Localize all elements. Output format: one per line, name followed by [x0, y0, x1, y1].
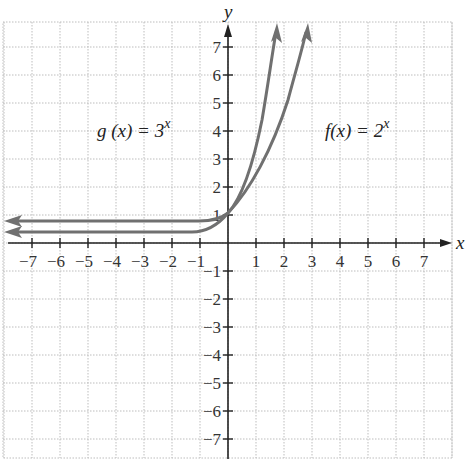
- y-tick-label: 2: [213, 178, 222, 197]
- y-axis-label: y: [222, 1, 233, 22]
- axes: [8, 24, 452, 459]
- y-tick-label: 4: [213, 122, 222, 141]
- x-tick-label: −6: [47, 252, 65, 271]
- g-up-arrow-icon: [271, 23, 282, 43]
- x-tick-label: 3: [308, 252, 317, 271]
- y-tick-label: 3: [213, 150, 222, 169]
- f-function-label: f(x) = 2x: [325, 116, 390, 142]
- x-tick-label: 1: [252, 252, 261, 271]
- x-tick-label: 5: [364, 252, 373, 271]
- y-tick-label: −1: [203, 262, 221, 281]
- y-tick-label: −4: [203, 346, 222, 365]
- x-tick-label: −2: [159, 252, 177, 271]
- g-label-exponent: x: [163, 116, 171, 131]
- y-tick-label: −7: [203, 430, 222, 449]
- x-tick-label: 2: [280, 252, 289, 271]
- x-tick-label: −4: [103, 252, 122, 271]
- x-tick-label: 6: [392, 252, 401, 271]
- y-tick-label: −2: [203, 290, 221, 309]
- x-tick-label: 7: [420, 252, 429, 271]
- y-tick-label: 5: [213, 94, 222, 113]
- f-up-arrow-icon: [301, 23, 312, 43]
- g-function-label: g (x) = 3x: [97, 116, 171, 142]
- y-tick-label: −3: [203, 318, 221, 337]
- f-label-exponent: x: [382, 116, 390, 131]
- y-tick-label: −5: [203, 374, 221, 393]
- y-tick-label: 6: [213, 66, 222, 85]
- g-label-base: g (x) = 3: [97, 120, 164, 142]
- x-tick-label: 4: [336, 252, 345, 271]
- x-axis-label: x: [455, 232, 465, 253]
- x-tick-label: −5: [75, 252, 93, 271]
- x-axis-arrow-icon: [440, 239, 452, 247]
- labels: y x g (x) = 3x f(x) = 2x: [97, 1, 465, 253]
- y-tick-label: 7: [213, 38, 222, 57]
- exponential-graph: −7−6−5−4−3−2−11234567−7−6−5−4−3−2−112345…: [0, 0, 466, 459]
- x-tick-label: −3: [131, 252, 149, 271]
- f-label-base: f(x) = 2: [325, 120, 384, 142]
- x-tick-label: −7: [19, 252, 38, 271]
- y-tick-label: −6: [203, 402, 221, 421]
- y-axis-arrow-icon: [224, 24, 232, 37]
